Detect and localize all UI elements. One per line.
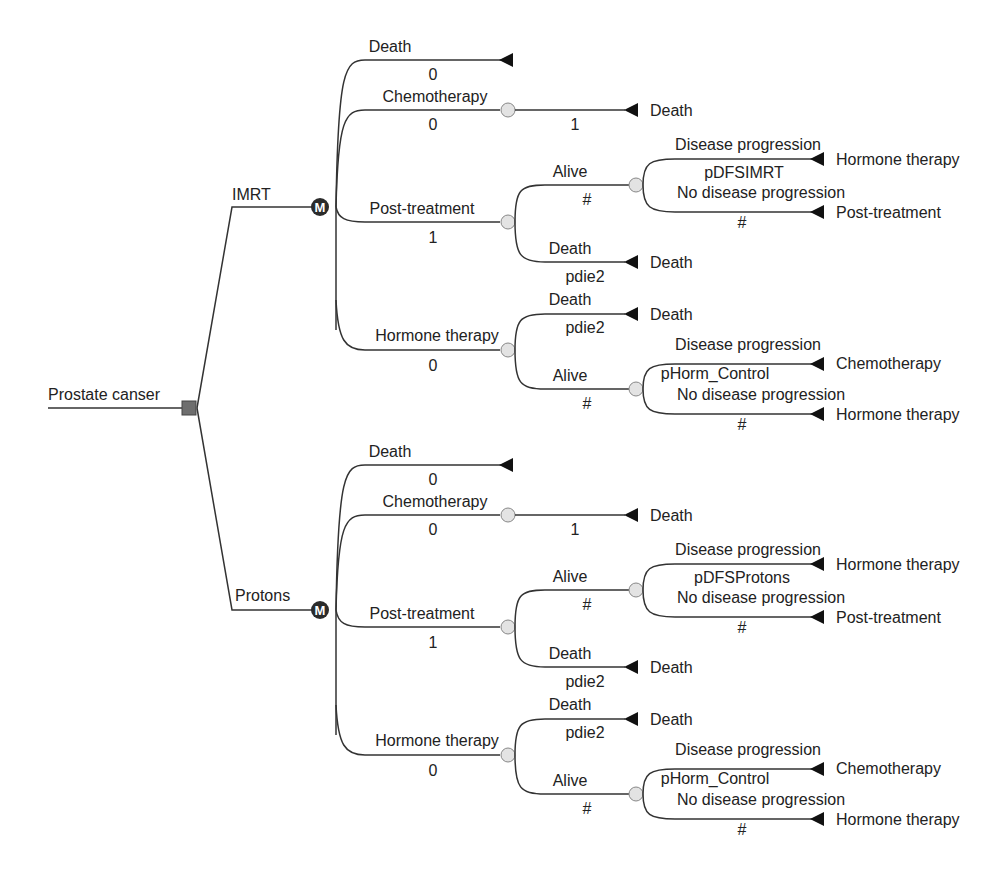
terminal-node-icon[interactable] [810,152,824,166]
jump-to-label: Death [650,306,693,324]
outcome-label: Disease progression [675,136,821,154]
outcome-label: No disease progression [677,791,845,809]
branch-prob: pdie2 [565,319,604,337]
jump-to-label: Chemotherapy [836,355,941,373]
terminal-node-icon[interactable] [624,255,638,269]
jump-to-label: Death [650,254,693,272]
state-label: Death [369,38,412,56]
state-prob: 0 [429,357,438,375]
branch-label: Death [549,240,592,258]
branch-prob: # [583,395,592,413]
branch-prob: # [583,800,592,818]
outcome-label: No disease progression [677,386,845,404]
chance-node-icon[interactable] [629,178,643,192]
state-label: Post-treatment [370,200,475,218]
branch-label: Alive [553,568,588,586]
branch-label: Death [549,291,592,309]
terminal-node-icon[interactable] [624,712,638,726]
jump-to-label: Hormone therapy [836,151,960,169]
chance-node-icon[interactable] [501,103,515,117]
chance-node-icon[interactable] [629,787,643,801]
terminal-node-icon[interactable] [624,103,638,117]
state-label: Hormone therapy [375,327,499,345]
terminal-node-icon[interactable] [624,660,638,674]
terminal-node-icon[interactable] [624,307,638,321]
terminal-node-icon[interactable] [624,508,638,522]
terminal-node-icon[interactable] [810,812,824,826]
branch-label: Alive [553,367,588,385]
branch-prob: pdie2 [565,673,604,691]
state-label: Death [369,443,412,461]
jump-to-label: Post-treatment [836,204,941,222]
chance-node-icon[interactable] [501,748,515,762]
terminal-node-icon[interactable] [499,53,513,67]
outcome-label: Disease progression [675,541,821,559]
terminal-node-icon[interactable] [810,205,824,219]
state-prob: 0 [429,116,438,134]
outcome-prob: pHorm_Control [661,365,769,383]
branch-label: Death [549,645,592,663]
branch-label: Alive [553,163,588,181]
jump-to-label: Hormone therapy [836,556,960,574]
branch-label: Death [549,696,592,714]
outcome-prob: pDFSProtons [694,569,790,587]
state-prob: 1 [429,634,438,652]
jump-to-label: Death [650,659,693,677]
outcome-label: Disease progression [675,741,821,759]
chance-node-icon[interactable] [629,382,643,396]
outcome-label: Disease progression [675,336,821,354]
branch-prob: pdie2 [565,724,604,742]
transition-prob: 1 [571,116,580,134]
outcome-prob: pDFSIMRT [704,164,784,182]
branch-prob: # [583,596,592,614]
outcome-prob: pHorm_Control [661,770,769,788]
markov-node-symbol: M [315,603,326,618]
state-label: Post-treatment [370,605,475,623]
terminal-node-icon[interactable] [810,557,824,571]
state-prob: 0 [429,762,438,780]
jump-to-label: Post-treatment [836,609,941,627]
state-prob: 0 [429,66,438,84]
branch-label: Alive [553,772,588,790]
jump-to-label: Chemotherapy [836,760,941,778]
strategy-label-protons: Protons [235,587,290,605]
chance-node-icon[interactable] [501,620,515,634]
decision-tree-canvas: M M [0,0,999,880]
state-prob: 1 [429,229,438,247]
outcome-label: No disease progression [677,589,845,607]
decision-node-icon[interactable] [182,401,196,415]
state-label: Hormone therapy [375,732,499,750]
branch-prob: pdie2 [565,268,604,286]
outcome-label: No disease progression [677,184,845,202]
chance-node-icon[interactable] [501,215,515,229]
edge-to-protons [197,408,312,610]
outcome-prob: # [738,619,747,637]
outcome-prob: # [738,214,747,232]
terminal-node-icon[interactable] [810,357,824,371]
chance-node-icon[interactable] [629,583,643,597]
terminal-node-icon[interactable] [810,762,824,776]
transition-prob: 1 [571,521,580,539]
root-label: Prostate canser [48,386,160,404]
terminal-node-icon[interactable] [810,610,824,624]
jump-to-label: Hormone therapy [836,406,960,424]
terminal-node-icon[interactable] [810,407,824,421]
strategy-label-imrt: IMRT [232,186,271,204]
jump-to-label: Death [650,507,693,525]
state-prob: 0 [429,521,438,539]
markov-node-symbol: M [315,200,326,215]
chance-node-icon[interactable] [501,508,515,522]
terminal-node-icon[interactable] [499,458,513,472]
state-prob: 0 [429,471,438,489]
edge-to-imrt [197,207,312,408]
state-label: Chemotherapy [383,88,488,106]
jump-to-label: Death [650,102,693,120]
outcome-prob: # [738,416,747,434]
jump-to-label: Death [650,711,693,729]
branch-prob: # [583,191,592,209]
chance-node-icon[interactable] [501,343,515,357]
outcome-prob: # [738,821,747,839]
jump-to-label: Hormone therapy [836,811,960,829]
state-label: Chemotherapy [383,493,488,511]
